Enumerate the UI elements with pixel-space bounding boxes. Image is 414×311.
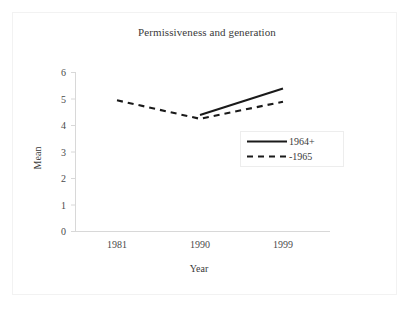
y-axis: 6 5 4 3 2 1 0 Mean [32,67,76,237]
y-tick-label-3: 3 [61,147,66,158]
x-tick-label-1990: 1990 [190,239,210,250]
line-chart-plot: 6 5 4 3 2 1 0 Mean 1981 1990 1999 Year [0,0,414,311]
series-line-1964plus [200,88,283,115]
figure-container: Permissiveness and generation 6 5 4 3 2 … [0,0,414,311]
y-tick-label-0: 0 [61,226,66,237]
y-tick-label-1: 1 [61,200,66,211]
series-line-1965 [117,100,283,119]
x-axis-title: Year [190,263,209,274]
x-tick-label-1999: 1999 [273,239,293,250]
y-tick-label-4: 4 [61,120,66,131]
y-tick-label-2: 2 [61,173,66,184]
legend-label-1965: -1965 [289,151,312,162]
y-tick-label-5: 5 [61,94,66,105]
series-group [117,88,283,118]
x-axis: 1981 1990 1999 Year [76,232,331,275]
y-tick-label-6: 6 [61,67,66,78]
y-axis-title: Mean [32,147,43,170]
legend-label-1964plus: 1964+ [289,136,315,147]
x-tick-label-1981: 1981 [107,239,127,250]
chart-legend: 1964+ -1965 [241,132,344,167]
